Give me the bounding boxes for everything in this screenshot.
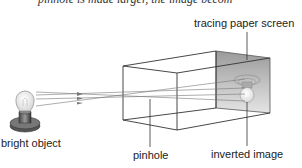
light-rays [36,79,245,106]
label-inverted-image: inverted image [211,148,283,160]
label-tracing-paper-screen: tracing paper screen [194,17,294,29]
label-pinhole: pinhole [133,149,168,161]
bright-object-bulb-icon [10,91,40,132]
ray-arrow-icons [77,92,83,105]
label-bright-object: bright object [1,137,61,149]
